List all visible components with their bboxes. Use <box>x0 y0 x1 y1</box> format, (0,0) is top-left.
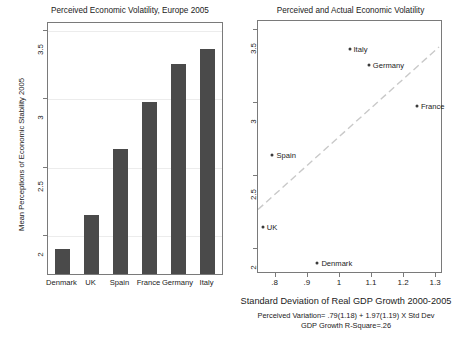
scatter-chart-title: Perceived and Actual Economic Volatility <box>248 6 453 15</box>
bar <box>113 149 129 275</box>
bar-chart-category-label: Denmark <box>46 278 77 287</box>
scatter-point-label: Italy <box>354 44 368 53</box>
scatter-chart-y-tick-label: 3.5 <box>249 28 258 68</box>
bar-chart-category-axis: DenmarkUKSpainFranceGermanyItaly <box>47 278 223 294</box>
scatter-chart-x-tick-mark <box>275 273 276 277</box>
bar-chart-category-label: France <box>137 278 161 287</box>
scatter-chart-x-tick-mark <box>307 273 308 277</box>
bar-chart-gridline <box>48 236 222 237</box>
bar-chart-gridline <box>48 31 222 32</box>
scatter-chart-x-tick-label: 1.2 <box>398 278 409 287</box>
scatter-chart-y-tick-label: 3 <box>249 101 258 141</box>
scatter-chart-x-tick-mark <box>371 273 372 277</box>
scatter-point-label: Spain <box>276 151 295 160</box>
bar-chart-gridline <box>48 168 222 169</box>
scatter-chart-y-tick-label: 2 <box>249 247 258 287</box>
bar-chart-category-label: Spain <box>110 278 129 287</box>
scatter-chart-x-axis-label: Standard Deviation of Real GDP Growth 20… <box>232 296 460 306</box>
scatter-chart-panel: Perceived and Actual Economic Volatility… <box>232 0 460 347</box>
scatter-point-label: France <box>421 101 445 110</box>
scatter-point <box>415 104 418 107</box>
bar <box>55 249 71 274</box>
scatter-chart-x-tick-label: 1.3 <box>430 278 441 287</box>
bar <box>84 215 100 274</box>
bar <box>171 64 187 274</box>
scatter-chart-x-tick-label: 1.1 <box>365 278 376 287</box>
bar <box>142 102 158 274</box>
bar-chart-y-tick-label: 3 <box>36 98 45 138</box>
scatter-point <box>348 47 351 50</box>
scatter-chart-plot-area: ItalyGermanyFranceSpainUKDenmark <box>257 20 442 273</box>
bar-chart-plot-area <box>47 22 223 275</box>
figure-canvas: Perceived Economic Volatility, Europe 20… <box>0 0 460 347</box>
bar-chart-category-label: Italy <box>200 278 214 287</box>
bar-chart-y-axis: 22.533.5 <box>0 0 47 300</box>
scatter-chart-x-tick-label: 1 <box>337 278 341 287</box>
scatter-point-label: UK <box>267 222 278 231</box>
scatter-chart-x-tick-label: .8 <box>271 278 278 287</box>
r-square-caption: GDP Growth R-Square=.26 <box>232 321 460 330</box>
scatter-chart-x-tick-mark <box>403 273 404 277</box>
scatter-point-label: Germany <box>373 60 404 69</box>
scatter-chart-x-tick-mark <box>435 273 436 277</box>
bar-chart-category-label: UK <box>85 278 96 287</box>
scatter-point <box>261 225 264 228</box>
bar-chart-panel: Perceived Economic Volatility, Europe 20… <box>0 0 232 347</box>
scatter-point <box>316 262 319 265</box>
bar-chart-y-tick-label: 3.5 <box>36 30 45 70</box>
scatter-chart-x-tick-label: .9 <box>303 278 310 287</box>
scatter-point-label: Denmark <box>321 259 352 268</box>
bar-chart-category-label: Germany <box>162 278 193 287</box>
scatter-chart-y-tick-label: 2.5 <box>249 174 258 214</box>
bar <box>200 49 216 274</box>
bar-chart-title: Perceived Economic Volatility, Europe 20… <box>30 6 230 15</box>
regression-equation-caption: Perceived Variation= .79(1.18) + 1.97(1.… <box>232 311 460 320</box>
regression-fit-line <box>258 21 441 272</box>
bar-chart-y-tick-label: 2.5 <box>36 166 45 206</box>
scatter-point <box>367 63 370 66</box>
scatter-chart-x-tick-mark <box>339 273 340 277</box>
scatter-chart-x-axis: .8.911.11.21.3 <box>232 278 460 292</box>
bar-chart-y-tick-label: 2 <box>36 234 45 274</box>
bar-chart-gridline <box>48 99 222 100</box>
scatter-point <box>271 154 274 157</box>
